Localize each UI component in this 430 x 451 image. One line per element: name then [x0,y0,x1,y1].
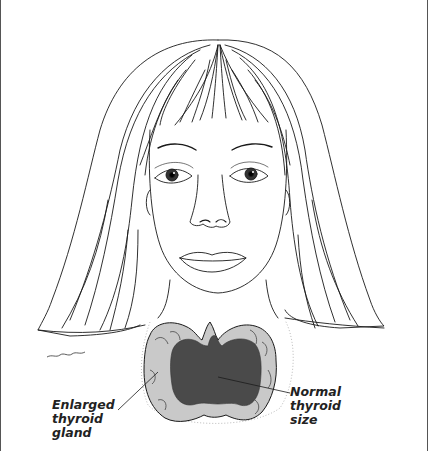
hair-outline [38,40,218,336]
neck-right [266,280,278,318]
enlarged-label-line3: gland [52,426,115,440]
lips [180,252,246,272]
normal-thyroid-size [171,335,262,405]
left-eyebrow [158,144,196,150]
face-outline [149,130,286,293]
normal-thyroid-label: Normal thyroid size [290,385,341,427]
normal-label-line1: Normal [290,385,341,399]
enlarged-label-line2: thyroid [52,412,115,426]
normal-label-line2: thyroid [290,399,341,413]
neck-left [158,280,170,318]
artist-signature [47,352,85,357]
normal-label-line3: size [290,413,341,427]
nose [190,175,230,227]
enlarged-thyroid-label: Enlarged thyroid gland [52,398,115,440]
thyroid-illustration [0,0,430,451]
enlarged-label-line1: Enlarged [52,398,115,412]
right-eyebrow [232,144,272,150]
